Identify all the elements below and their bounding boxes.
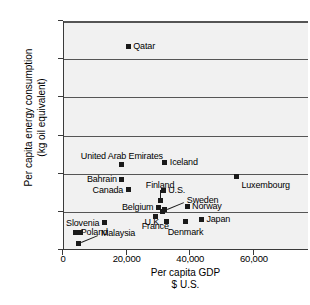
data-marker-iceland [162,160,167,165]
data-marker-united-arab-emirates [119,162,124,167]
plot-area [63,21,308,250]
x-tick-label-20000: 20,000 [97,254,157,264]
gridline-30000 [64,21,308,22]
data-label-finland: Finland [146,181,174,190]
data-label-iceland: Iceland [170,158,198,167]
x-axis-title: Per capita GDP $ U.S. [63,267,308,291]
data-label-u-k: U.K. [145,217,162,226]
x-tick-mark-20000 [126,250,127,255]
data-label-denmark: Denmark [168,227,203,236]
data-label-japan: Japan [206,215,230,224]
x-tick-label-60000: 60,000 [224,254,284,264]
y-tick-mark-25000 [58,58,63,59]
gridline-30000 [64,22,308,23]
data-marker-luxembourg [234,174,239,179]
x-tick-mark-0 [62,250,63,255]
data-marker-extra-1 [160,209,165,214]
data-marker-qatar [126,44,131,49]
gridline-5000 [64,212,308,213]
scatter-chart-figure: Per capita energy consumption (kg oil eq… [0,0,310,305]
y-tick-mark-30000 [58,20,63,21]
data-label-qatar: Qatar [133,42,155,51]
x-tick-label-0: 0 [33,254,93,264]
data-label-luxembourg: Luxembourg [241,180,290,189]
data-label-slovenia: Slovenia [66,218,99,227]
data-label-canada: Canada [93,185,124,194]
data-marker-canada [126,187,131,192]
data-label-malaysia: Malaysia [101,229,135,238]
gridline-15000 [64,136,308,137]
data-marker-extra-0 [78,230,83,235]
data-marker-norway [185,204,190,209]
data-label-norway: Norway [192,202,222,211]
x-tick-mark-60000 [253,250,254,255]
gridline-20000 [64,97,308,98]
y-tick-mark-20000 [58,96,63,97]
data-label-belgium: Belgium [122,203,153,212]
leader-line-finland [160,190,161,198]
x-tick-label-40000: 40,000 [160,254,220,264]
data-label-bahrain: Bahrain [87,175,117,184]
gridline-25000 [64,59,308,60]
data-marker-finland [158,198,163,203]
data-marker-slovenia [102,220,107,225]
data-marker-denmark [183,219,188,224]
data-label-united-arab-emirates: United Arab Emirates [81,151,163,160]
y-tick-mark-10000 [58,173,63,174]
y-tick-mark-15000 [58,135,63,136]
data-marker-u-k [164,219,169,224]
data-marker-japan [199,217,204,222]
x-tick-mark-40000 [189,250,190,255]
y-axis-title: Per capita energy consumption (kg oil eq… [23,3,48,233]
y-tick-mark-5000 [58,211,63,212]
data-marker-bahrain [119,177,124,182]
